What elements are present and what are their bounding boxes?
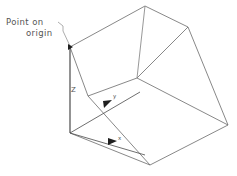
- leader-line-group: [58, 22, 70, 46]
- edge-top-right-to-right: [188, 27, 228, 125]
- box-top-face-edges: [70, 6, 188, 96]
- axis-z-label: Z: [71, 86, 76, 94]
- box-lower-edges: [70, 27, 228, 165]
- edge-top-apex-to-top-right: [145, 6, 188, 27]
- axis-x-line: [70, 133, 145, 155]
- axis-x-arrow: [70, 133, 145, 155]
- leader-bracket: [58, 22, 63, 31]
- edge-bottom-to-right: [150, 125, 228, 165]
- annotation-line-2: origin: [26, 28, 53, 38]
- leader-line: [63, 31, 70, 46]
- diagram-canvas: Point on origin Z y x: [0, 0, 237, 176]
- axis-x-label: x: [118, 135, 121, 141]
- edge-vertical-interior: [137, 6, 145, 78]
- edge-origin-to-top-apex: [70, 6, 145, 47]
- axis-y-line: [70, 92, 140, 133]
- edge-mid-left-to-bottom: [88, 96, 150, 165]
- axis-y-arrow: [70, 92, 140, 133]
- edge-mid-front-to-top-right: [137, 27, 188, 78]
- axis-y-arrowhead: [103, 100, 112, 108]
- axis-x-arrowhead: [108, 138, 117, 145]
- axis-y-label: y: [113, 93, 116, 99]
- annotation-line-1: Point on: [6, 17, 44, 27]
- edge-mid-front-to-right: [137, 78, 228, 125]
- edge-origin-bottom-to-bottom: [70, 133, 150, 165]
